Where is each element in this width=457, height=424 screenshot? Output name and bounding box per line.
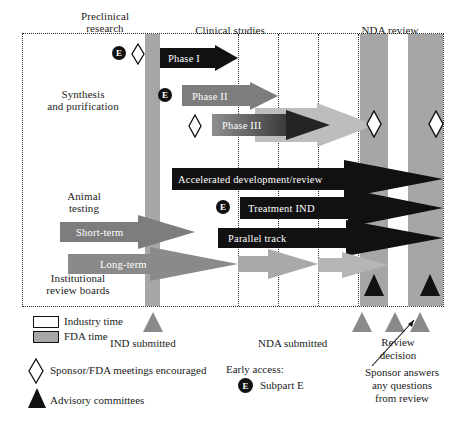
arrow-long-term: Long-term: [68, 254, 238, 274]
arrow-long-term-segment-2: [238, 256, 318, 272]
arrow-label-phase-2: Phase II: [192, 90, 228, 101]
label-institutional-review-boards: Institutional review boards: [18, 272, 138, 297]
subpart-e-icon-phase-2: E: [158, 88, 172, 102]
label-synthesis-and-purification: Synthesis and purification: [28, 88, 138, 113]
arrow-parallel-track: Parallel track: [218, 228, 443, 248]
arrow-treatment-ind: Treatment IND: [240, 197, 443, 219]
arrow-label-phase-3: Phase III: [222, 120, 261, 131]
sponsor-meeting-diamond-icon-phase-3: [188, 114, 202, 138]
advisory-committee-triangle-icon-2: [420, 274, 440, 296]
label-animal-testing: Animal testing: [36, 190, 132, 215]
sponsor-meeting-diamond-icon-nda-2: [428, 110, 444, 138]
arrow-phase-3: Phase III: [212, 114, 330, 136]
arrow-accelerated-development-review: Accelerated development/review: [172, 168, 443, 190]
arrow-label-phase-1: Phase I: [168, 53, 200, 64]
advisory-committee-triangle-icon-1: [364, 274, 384, 296]
annotation-sponsor-answers: Sponsor answers any questions from revie…: [352, 366, 452, 406]
arrow-phase-1: Phase I: [160, 48, 238, 68]
arrow-label-long-term: Long-term: [100, 259, 147, 270]
milestone-label-nda-submitted: NDA submitted: [258, 337, 327, 349]
arrow-label-accelerated-development-review: Accelerated development/review: [178, 174, 322, 185]
arrow-long-term-segment-3: [318, 258, 388, 272]
legend-icon-sponsor-meeting-diamond: [28, 358, 44, 384]
milestone-triangle-ind-submitted: [143, 312, 163, 332]
legend-swatch-fda-time: [33, 331, 59, 343]
legend-icon-advisory-committee-triangle: [28, 388, 46, 408]
header-preclinical-research: Preclinical research: [50, 10, 160, 35]
legend-label-fda-time: FDA time: [64, 330, 108, 342]
subpart-e-icon-phase-1: E: [112, 46, 126, 60]
sponsor-meeting-diamond-icon-phase-1: [131, 43, 145, 65]
legend-label-early-access: Early access:: [226, 363, 284, 375]
sponsor-meeting-diamond-icon-nda-1: [366, 110, 382, 138]
arrow-label-short-term: Short-term: [76, 227, 124, 238]
legend-label-advisory-committees: Advisory committees: [50, 394, 144, 406]
arrow-phase-2: Phase II: [182, 85, 278, 106]
figure-canvas: Preclinical research Clinical studies ND…: [0, 0, 457, 424]
annotation-leader-line: [368, 318, 416, 368]
arrow-label-treatment-ind: Treatment IND: [248, 203, 315, 214]
legend-label-industry-time: Industry time: [64, 315, 123, 327]
legend-label-sponsor-meetings: Sponsor/FDA meetings encouraged: [50, 364, 206, 376]
milestone-label-ind-submitted: IND submitted: [110, 337, 176, 349]
subpart-e-icon-treatment-ind: E: [216, 200, 230, 214]
legend-swatch-industry-time: [33, 316, 59, 328]
legend-icon-subpart-e: E: [238, 378, 253, 393]
arrow-label-parallel-track: Parallel track: [228, 233, 286, 244]
legend-label-subpart-e: Subpart E: [260, 379, 304, 391]
arrow-short-term: Short-term: [60, 222, 195, 242]
